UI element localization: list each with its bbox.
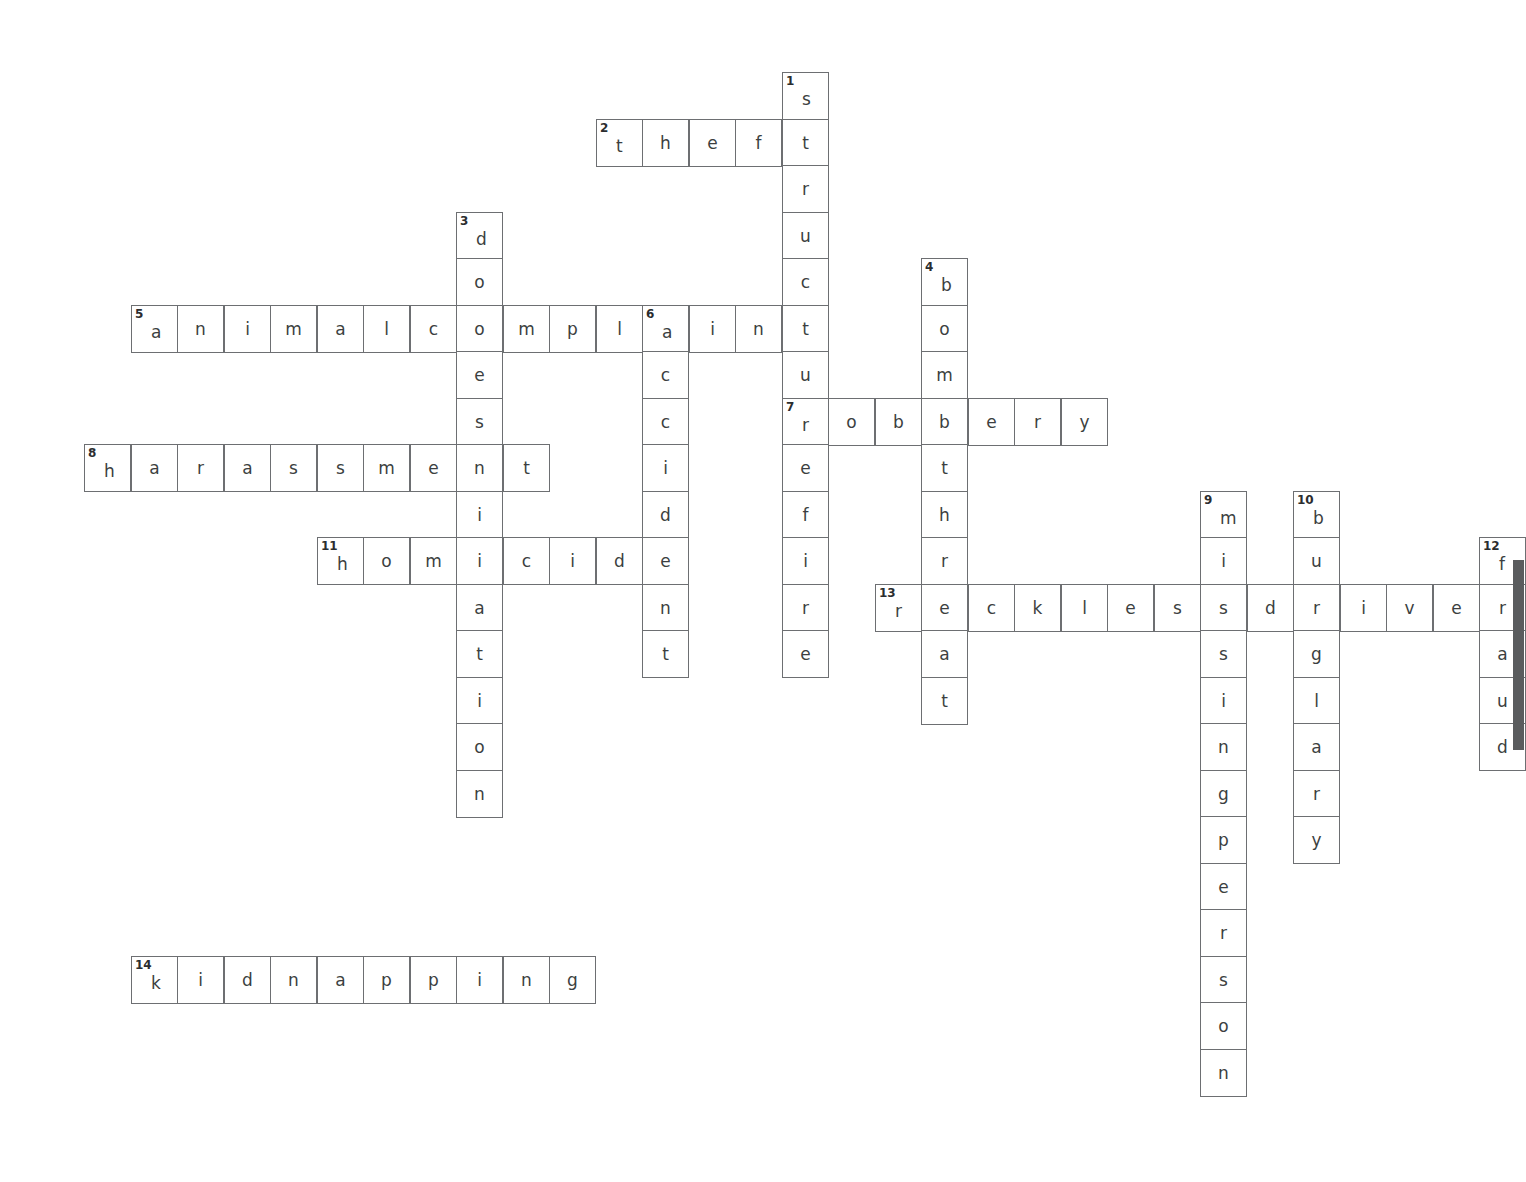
crossword-cell[interactable]: t	[782, 119, 829, 167]
crossword-cell[interactable]: n	[456, 444, 503, 492]
crossword-cell[interactable]: 11h	[317, 537, 364, 585]
crossword-cell[interactable]: i	[224, 305, 271, 353]
crossword-cell[interactable]: a	[317, 305, 364, 353]
crossword-cell[interactable]: c	[782, 258, 829, 306]
crossword-cell[interactable]: s	[270, 444, 317, 492]
crossword-cell[interactable]: b	[921, 398, 968, 446]
crossword-cell[interactable]: o	[456, 723, 503, 771]
crossword-cell[interactable]: y	[1293, 816, 1340, 864]
crossword-cell[interactable]: d	[596, 537, 643, 585]
crossword-cell[interactable]: m	[503, 305, 550, 353]
crossword-cell[interactable]: l	[1293, 677, 1340, 725]
crossword-cell[interactable]: p	[1200, 816, 1247, 864]
crossword-cell[interactable]: r	[1293, 770, 1340, 818]
crossword-cell[interactable]: i	[549, 537, 596, 585]
crossword-cell[interactable]: s	[1200, 630, 1247, 678]
scrollbar-thumb[interactable]	[1513, 560, 1524, 750]
crossword-cell[interactable]: l	[596, 305, 643, 353]
crossword-cell[interactable]: e	[689, 119, 736, 167]
crossword-cell[interactable]: e	[1107, 584, 1154, 632]
crossword-cell[interactable]: e	[1200, 863, 1247, 911]
crossword-cell[interactable]: n	[1200, 723, 1247, 771]
crossword-cell[interactable]: m	[363, 444, 410, 492]
crossword-cell[interactable]: r	[921, 537, 968, 585]
crossword-cell[interactable]: s	[317, 444, 364, 492]
crossword-cell[interactable]: 14k	[131, 956, 178, 1004]
crossword-cell[interactable]: e	[642, 537, 689, 585]
crossword-cell[interactable]: i	[689, 305, 736, 353]
crossword-cell[interactable]: e	[456, 351, 503, 399]
crossword-cell[interactable]: e	[782, 444, 829, 492]
crossword-cell[interactable]: d	[1247, 584, 1294, 632]
crossword-cell[interactable]: v	[1386, 584, 1433, 632]
crossword-cell[interactable]: 5a	[131, 305, 178, 353]
crossword-cell[interactable]: g	[1293, 630, 1340, 678]
crossword-cell[interactable]: 9m	[1200, 491, 1247, 539]
crossword-cell[interactable]: s	[1200, 584, 1247, 632]
crossword-cell[interactable]: e	[782, 630, 829, 678]
crossword-cell[interactable]: u	[782, 212, 829, 260]
crossword-cell[interactable]: l	[363, 305, 410, 353]
crossword-cell[interactable]: i	[642, 444, 689, 492]
crossword-cell[interactable]: r	[1014, 398, 1061, 446]
crossword-cell[interactable]: o	[1200, 1002, 1247, 1050]
crossword-cell[interactable]: e	[968, 398, 1015, 446]
crossword-cell[interactable]: n	[270, 956, 317, 1004]
crossword-cell[interactable]: m	[921, 351, 968, 399]
crossword-cell[interactable]: u	[1293, 537, 1340, 585]
crossword-cell[interactable]: 1s	[782, 72, 829, 120]
crossword-cell[interactable]: a	[456, 584, 503, 632]
crossword-cell[interactable]: i	[782, 537, 829, 585]
crossword-cell[interactable]: o	[456, 305, 503, 353]
crossword-cell[interactable]: f	[782, 491, 829, 539]
crossword-cell[interactable]: o	[456, 258, 503, 306]
crossword-cell[interactable]: g	[1200, 770, 1247, 818]
crossword-cell[interactable]: t	[456, 630, 503, 678]
crossword-cell[interactable]: n	[735, 305, 782, 353]
crossword-cell[interactable]: r	[1200, 909, 1247, 957]
crossword-cell[interactable]: i	[1200, 677, 1247, 725]
crossword-cell[interactable]: u	[782, 351, 829, 399]
crossword-cell[interactable]: i	[456, 537, 503, 585]
crossword-cell[interactable]: n	[642, 584, 689, 632]
crossword-cell[interactable]: 2t	[596, 119, 643, 167]
crossword-cell[interactable]: g	[549, 956, 596, 1004]
crossword-cell[interactable]: d	[642, 491, 689, 539]
crossword-cell[interactable]: o	[921, 305, 968, 353]
vertical-scrollbar[interactable]	[1513, 0, 1524, 1182]
crossword-cell[interactable]: a	[1293, 723, 1340, 771]
crossword-cell[interactable]: c	[410, 305, 457, 353]
crossword-cell[interactable]: s	[1200, 956, 1247, 1004]
crossword-cell[interactable]: p	[410, 956, 457, 1004]
crossword-cell[interactable]: r	[177, 444, 224, 492]
crossword-cell[interactable]: l	[1061, 584, 1108, 632]
crossword-cell[interactable]: h	[921, 491, 968, 539]
crossword-cell[interactable]: t	[503, 444, 550, 492]
crossword-cell[interactable]: a	[317, 956, 364, 1004]
crossword-cell[interactable]: f	[735, 119, 782, 167]
crossword-cell[interactable]: i	[456, 677, 503, 725]
crossword-cell[interactable]: a	[921, 630, 968, 678]
crossword-cell[interactable]: p	[363, 956, 410, 1004]
crossword-cell[interactable]: s	[456, 398, 503, 446]
crossword-cell[interactable]: o	[828, 398, 875, 446]
crossword-cell[interactable]: 7r	[782, 398, 829, 446]
crossword-cell[interactable]: 6a	[642, 305, 689, 353]
crossword-cell[interactable]: m	[410, 537, 457, 585]
crossword-cell[interactable]: e	[410, 444, 457, 492]
crossword-cell[interactable]: 13r	[875, 584, 922, 632]
crossword-cell[interactable]: c	[968, 584, 1015, 632]
crossword-cell[interactable]: i	[177, 956, 224, 1004]
crossword-cell[interactable]: r	[782, 165, 829, 213]
crossword-cell[interactable]: n	[177, 305, 224, 353]
crossword-cell[interactable]: n	[503, 956, 550, 1004]
crossword-cell[interactable]: n	[1200, 1049, 1247, 1097]
crossword-cell[interactable]: t	[921, 444, 968, 492]
crossword-cell[interactable]: t	[642, 630, 689, 678]
crossword-cell[interactable]: k	[1014, 584, 1061, 632]
crossword-cell[interactable]: r	[1293, 584, 1340, 632]
crossword-cell[interactable]: h	[642, 119, 689, 167]
crossword-cell[interactable]: 10b	[1293, 491, 1340, 539]
crossword-cell[interactable]: t	[921, 677, 968, 725]
